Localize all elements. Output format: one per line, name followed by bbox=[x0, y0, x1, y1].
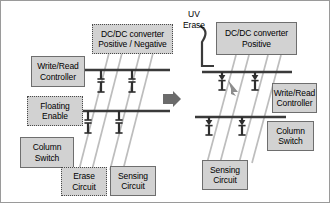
right-column-switch-line2: Switch bbox=[278, 136, 302, 147]
right-arrow-icon bbox=[163, 91, 181, 107]
left-column-switch-line1: Column bbox=[33, 142, 62, 153]
right-write-read-controller-box[interactable]: Write/Read Controller bbox=[272, 83, 317, 113]
left-dcdc-line2: Positive / Negative bbox=[98, 39, 167, 50]
left-sensing-line1: Sensing bbox=[118, 171, 148, 182]
left-write-read-line2: Controller bbox=[40, 72, 76, 83]
left-floating-line2: Enable bbox=[42, 111, 68, 122]
left-floating-line1: Floating bbox=[40, 101, 69, 112]
right-sensing-line1: Sensing bbox=[210, 165, 240, 176]
left-column-switch-box[interactable]: Column Switch bbox=[20, 137, 74, 168]
right-dcdc-line1: DC/DC converter bbox=[225, 28, 288, 39]
left-write-read-controller-box[interactable]: Write/Read Controller bbox=[31, 56, 85, 87]
right-column-switch-line1: Column bbox=[276, 126, 305, 137]
right-write-read-line1: Write/Read bbox=[274, 88, 315, 99]
right-write-read-line2: Controller bbox=[277, 98, 313, 109]
figure-canvas: DC/DC converter Positive / Negative Writ… bbox=[0, 0, 331, 204]
left-sensing-line2: Circuit bbox=[121, 181, 144, 192]
right-dcdc-converter-box[interactable]: DC/DC converter Positive bbox=[216, 22, 297, 55]
left-erase-circuit-box[interactable]: Erase Circuit bbox=[61, 167, 107, 196]
left-erase-line1: Erase bbox=[73, 171, 95, 182]
left-dcdc-line1: DC/DC converter bbox=[101, 29, 164, 40]
uv-erase-label: UV Erase bbox=[179, 9, 209, 30]
right-column-switch-box[interactable]: Column Switch bbox=[267, 121, 314, 151]
left-erase-line2: Circuit bbox=[72, 182, 95, 193]
left-sensing-circuit-box[interactable]: Sensing Circuit bbox=[110, 166, 156, 196]
right-sensing-line2: Circuit bbox=[213, 175, 236, 186]
right-dcdc-line2: Positive bbox=[242, 39, 271, 50]
right-sensing-circuit-box[interactable]: Sensing Circuit bbox=[202, 160, 248, 190]
uv-erase-line2: Erase bbox=[179, 20, 209, 31]
left-column-switch-line2: Switch bbox=[35, 153, 59, 164]
left-dcdc-converter-box[interactable]: DC/DC converter Positive / Negative bbox=[92, 24, 173, 54]
left-floating-enable-box[interactable]: Floating Enable bbox=[27, 96, 83, 126]
left-write-read-line1: Write/Read bbox=[37, 61, 78, 72]
uv-erase-line1: UV bbox=[179, 9, 209, 20]
